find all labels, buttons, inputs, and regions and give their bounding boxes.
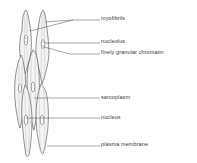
- label-nucleolus: nucleolus: [101, 39, 125, 45]
- smooth-muscle-diagram: [0, 0, 197, 163]
- label-nucleus: nucleus: [101, 115, 121, 121]
- label-chromatin: finely granular chromatin: [101, 50, 164, 56]
- nucleus-1: [24, 35, 28, 45]
- leader-chromatin: [44, 47, 100, 54]
- label-plasma-membrane: plasma membrane: [101, 142, 148, 148]
- nucleus-6: [40, 115, 44, 125]
- nucleus-3: [18, 84, 21, 93]
- label-myofibrils: myofibrils: [101, 16, 125, 22]
- nucleus-4: [31, 82, 35, 92]
- label-sarcoplasm: sarcoplasm: [101, 95, 130, 101]
- nucleus-5: [24, 115, 28, 125]
